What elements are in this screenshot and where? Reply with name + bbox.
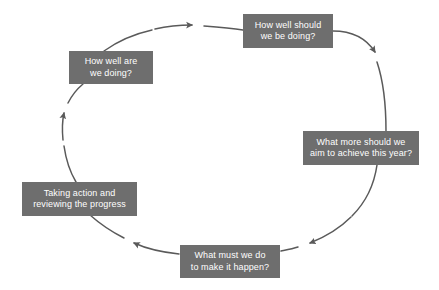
arrow-top-to-right: [333, 31, 375, 52]
arc-right-to-bottom-head: [352, 165, 377, 216]
node-how-well-should-we-be-doing[interactable]: How well should we be doing?: [243, 14, 333, 48]
arc-right-to-bottom-tail: [281, 247, 298, 251]
node-label-line-2: to make it happen?: [191, 262, 269, 274]
node-label-line-2: we be doing?: [261, 31, 316, 43]
arc-left-to-topleft-tail: [68, 84, 83, 103]
arrow-left-to-topleft: [62, 113, 64, 140]
node-label-line-2: aim to achieve this year?: [310, 148, 412, 160]
arc-topleft-to-top-tail: [204, 26, 243, 30]
node-how-well-are-we-doing[interactable]: How well are we doing?: [69, 51, 153, 84]
node-label-line-2: we doing?: [90, 68, 132, 80]
arc-top-to-right-tail: [377, 62, 386, 131]
node-label-line-1: Taking action and: [44, 188, 116, 200]
cycle-diagram: How well should we be doing? What more s…: [0, 0, 439, 290]
node-label-line-1: How well are: [85, 56, 138, 68]
node-label-line-1: What must we do: [194, 250, 265, 262]
arrow-right-to-bottom: [310, 217, 351, 243]
node-label-line-1: What more should we: [317, 137, 406, 149]
arrow-topleft-to-top: [155, 25, 192, 29]
arc-topleft-to-top-head: [104, 30, 152, 51]
node-label-line-2: reviewing the progress: [33, 199, 126, 211]
arrow-bottom-to-left: [134, 243, 179, 254]
node-label-line-1: How well should: [255, 20, 322, 32]
arc-bottom-to-left-tail: [90, 215, 124, 238]
node-taking-action-and-reviewing-the-progress[interactable]: Taking action and reviewing the progress: [22, 182, 137, 216]
arc-left-to-topleft-head: [64, 146, 76, 182]
node-what-must-we-do-to-make-it-happen[interactable]: What must we do to make it happen?: [180, 245, 280, 278]
node-what-more-should-we-aim-to-achieve[interactable]: What more should we aim to achieve this …: [303, 131, 419, 165]
